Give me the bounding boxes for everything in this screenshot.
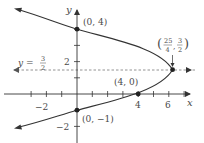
point-4-0 — [136, 92, 141, 97]
svg-text:): ) — [184, 36, 189, 51]
label-dashed-line: y = 3 2 — [17, 55, 46, 72]
svg-text:2: 2 — [41, 64, 45, 72]
svg-text:25: 25 — [164, 37, 172, 45]
svg-text:2: 2 — [178, 46, 182, 54]
svg-text:(: ( — [157, 36, 162, 51]
label-vertex: ( 25 4 , 3 2 ) — [157, 36, 189, 54]
tick-label-y-neg2: −2 — [56, 122, 69, 132]
svg-text:4: 4 — [166, 46, 170, 54]
svg-text:y =: y = — [17, 58, 34, 68]
point-vertex — [170, 67, 175, 72]
point-0-neg1 — [75, 108, 80, 113]
vertex-pointer-arrow-icon — [171, 63, 175, 67]
curve-arrow-bottom-icon — [14, 125, 22, 130]
parabola-chart: y x (0, 4) (4, 0) (0, −1) ( 25 4 , 3 2 )… — [0, 0, 204, 143]
tick-label-x-neg2: −2 — [35, 102, 48, 112]
curve-arrow-top-icon — [14, 8, 22, 13]
svg-text:3: 3 — [41, 55, 45, 63]
y-axis-label: y — [65, 4, 72, 15]
svg-text:,: , — [173, 42, 176, 51]
label-point-0-neg1: (0, −1) — [82, 114, 114, 124]
tick-label-y-2: 2 — [64, 57, 70, 67]
label-point-4-0: (4, 0) — [114, 77, 138, 87]
tick-label-x-4: 4 — [135, 100, 141, 110]
label-point-0-4: (0, 4) — [83, 17, 107, 27]
dashed-arrow-right-icon — [186, 67, 192, 73]
tick-label-x-6: 6 — [165, 100, 171, 110]
point-0-4 — [75, 27, 80, 32]
svg-text:3: 3 — [178, 37, 182, 45]
x-axis-label: x — [187, 97, 193, 108]
